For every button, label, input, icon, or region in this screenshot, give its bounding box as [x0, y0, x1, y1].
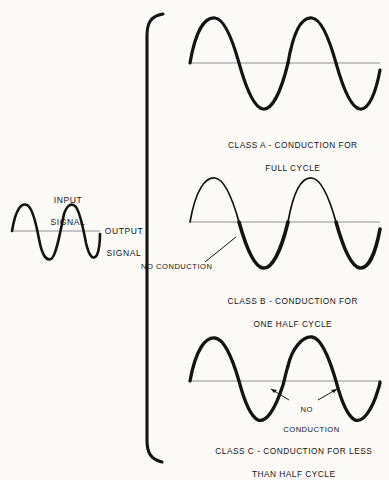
class-b-waveform-group	[190, 178, 380, 268]
output-signal-label-line2: SIGNAL	[107, 248, 142, 258]
class-c-no-conduction-line2: CONDUCTION	[283, 425, 339, 434]
class-c-caption-line2: THAN HALF CYCLE	[252, 469, 336, 479]
input-signal-label-line1: INPUT	[54, 195, 83, 205]
class-b-annotation-leader-line	[205, 237, 236, 262]
class-a-caption: CLASS A - CONDUCTION FOR FULL CYCLE	[200, 128, 380, 174]
class-b-nonconduction-segment-1	[190, 178, 239, 222]
class-b-conduction-segment-1	[239, 222, 288, 268]
output-signal-label-line1: OUTPUT	[105, 226, 144, 236]
class-c-no-conduction-label: NO CONDUCTION	[278, 395, 330, 435]
class-b-caption-line2: ONE HALF CYCLE	[254, 319, 332, 329]
class-b-caption: CLASS B - CONDUCTION FOR ONE HALF CYCLE	[200, 284, 380, 330]
class-c-caption-line1: CLASS C - CONDUCTION FOR LESS	[215, 446, 372, 456]
input-signal-label: INPUT SIGNAL	[28, 184, 102, 228]
class-c-caption: CLASS C - CONDUCTION FOR LESS THAN HALF …	[196, 434, 386, 480]
class-a-caption-line2: FULL CYCLE	[265, 163, 320, 173]
input-signal-label-line2: SIGNAL	[51, 217, 86, 227]
class-c-conduction-segment-1	[190, 338, 288, 420]
output-signal-label: OUTPUT SIGNAL	[96, 215, 146, 259]
class-a-caption-line1: CLASS A - CONDUCTION FOR	[228, 140, 358, 150]
class-c-no-conduction-line1: NO	[300, 405, 312, 414]
class-b-no-conduction-label: NO CONDUCTION	[141, 262, 211, 272]
vertical-brace-icon	[147, 14, 163, 462]
class-a-waveform-group	[190, 18, 380, 109]
class-b-nonconduction-segment-2	[288, 178, 336, 222]
class-b-conduction-segment-2	[336, 222, 380, 268]
class-b-caption-line1: CLASS B - CONDUCTION FOR	[228, 296, 358, 306]
output-brace-group	[147, 14, 163, 462]
